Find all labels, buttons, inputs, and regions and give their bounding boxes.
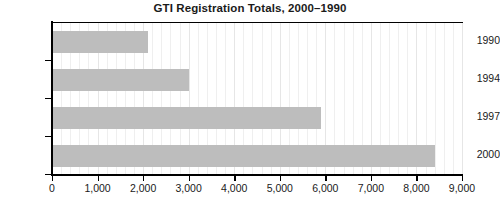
y-axis-tick-label: 2000 (456, 148, 500, 160)
x-axis-tick-mark (325, 176, 326, 181)
x-axis-tick-label: 1,000 (84, 182, 110, 194)
bar (52, 31, 148, 53)
x-axis-tick-mark (52, 176, 53, 181)
gridline-minor (453, 23, 454, 175)
x-axis-tick-mark (234, 176, 235, 181)
x-axis-tick-mark (143, 176, 144, 181)
x-axis-tick-mark (189, 176, 190, 181)
y-axis-tick-mark (45, 174, 51, 175)
y-axis-tick-label: 1990 (456, 34, 500, 46)
plot-area (52, 22, 463, 175)
x-axis-tick-label: 2,000 (130, 182, 156, 194)
y-axis-tick-label: 1997 (456, 110, 500, 122)
bar (52, 145, 435, 167)
y-axis-tick-mark (45, 60, 51, 61)
x-axis-tick-mark (98, 176, 99, 181)
x-axis-tick-mark (416, 176, 417, 181)
gridline-minor (435, 23, 436, 175)
y-axis-tick-label: 1994 (456, 72, 500, 84)
gridline-minor (444, 23, 445, 175)
x-axis-tick-label: 8,000 (403, 182, 429, 194)
x-axis-tick-mark (462, 176, 463, 181)
y-axis-tick-mark (45, 136, 51, 137)
x-axis-tick-label: 9,000 (449, 182, 475, 194)
chart-title: GTI Registration Totals, 2000–1990 (0, 2, 500, 14)
x-axis-tick-label: 6,000 (312, 182, 338, 194)
bar (52, 69, 189, 91)
y-axis-line (51, 21, 53, 176)
x-axis-tick-label: 3,000 (176, 182, 202, 194)
x-axis-line (51, 174, 463, 176)
x-axis-tick-mark (280, 176, 281, 181)
bar-chart: GTI Registration Totals, 2000–1990 19901… (0, 0, 500, 203)
y-axis-tick-mark (45, 98, 51, 99)
x-axis-tick-mark (371, 176, 372, 181)
x-axis-tick-label: 0 (49, 182, 55, 194)
bar (52, 107, 321, 129)
x-axis-tick-label: 5,000 (267, 182, 293, 194)
x-axis-tick-label: 7,000 (358, 182, 384, 194)
x-axis-tick-label: 4,000 (221, 182, 247, 194)
